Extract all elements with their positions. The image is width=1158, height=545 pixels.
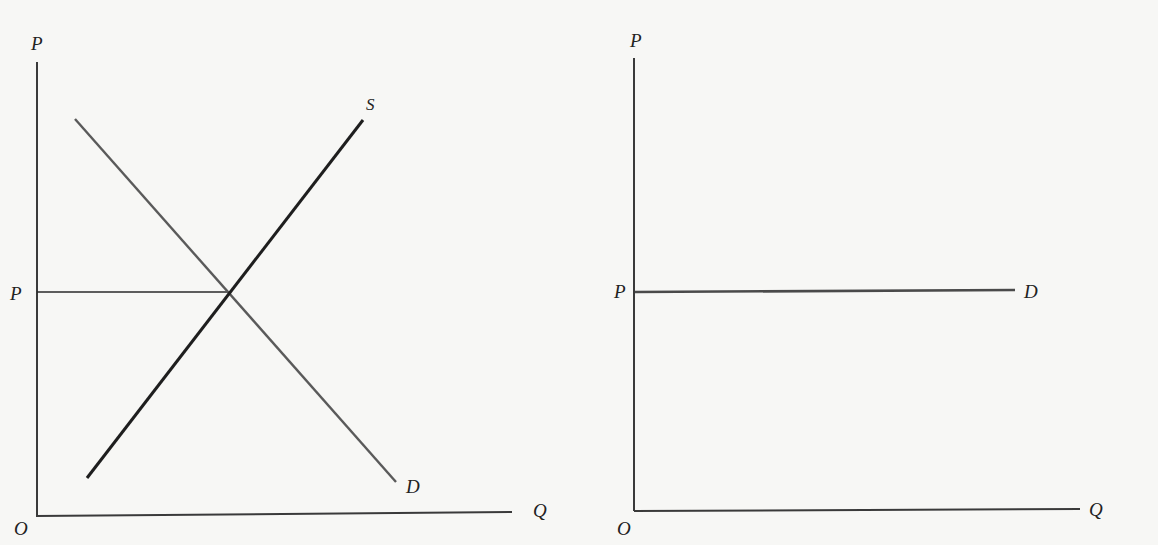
left-origin-label: O: [14, 519, 28, 538]
left-supply-curve: [87, 120, 363, 478]
left-y-axis-label: P: [31, 34, 43, 53]
left-price-label: P: [10, 284, 22, 303]
charts-canvas: [0, 0, 1158, 545]
left-demand-label: D: [406, 477, 420, 496]
right-demand-label: D: [1024, 282, 1038, 301]
right-x-axis: [634, 509, 1080, 511]
left-x-axis-label: Q: [533, 501, 547, 520]
left-demand-curve: [75, 119, 396, 482]
right-y-axis-label: P: [630, 31, 642, 50]
right-demand-curve: [635, 290, 1015, 292]
figure: P S P D O Q P P D O Q: [0, 0, 1158, 545]
right-origin-label: O: [617, 519, 631, 538]
left-x-axis: [36, 512, 512, 516]
left-supply-label: S: [366, 96, 375, 113]
left-chart: [36, 62, 512, 516]
right-chart: [634, 58, 1080, 511]
right-x-axis-label: Q: [1089, 500, 1103, 519]
right-price-label: P: [614, 282, 626, 301]
